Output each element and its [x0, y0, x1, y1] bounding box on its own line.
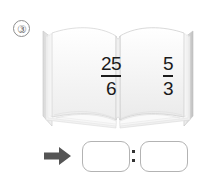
answer-box-second-term[interactable] [140, 141, 188, 172]
ratio-colon-dot-bottom [132, 159, 135, 162]
answer-box-first-term[interactable] [82, 141, 130, 172]
answer-row [44, 139, 194, 175]
left-fraction-bar [101, 75, 121, 77]
left-fraction-numerator: 25 [101, 54, 121, 74]
right-page-fraction: 5 3 [150, 54, 186, 99]
open-book-illustration: 25 6 5 3 [38, 16, 198, 134]
right-arrow-icon [44, 146, 72, 166]
right-fraction-denominator: 3 [163, 79, 173, 98]
right-fraction-bar [163, 75, 173, 77]
left-fraction-denominator: 6 [101, 79, 121, 98]
right-fraction-numerator: 5 [163, 54, 173, 74]
left-page-fraction: 25 6 [90, 54, 132, 99]
worksheet-problem: ③ [0, 0, 206, 187]
ratio-colon [132, 150, 136, 164]
problem-number-badge: ③ [13, 20, 30, 37]
ratio-colon-dot-top [132, 150, 135, 153]
